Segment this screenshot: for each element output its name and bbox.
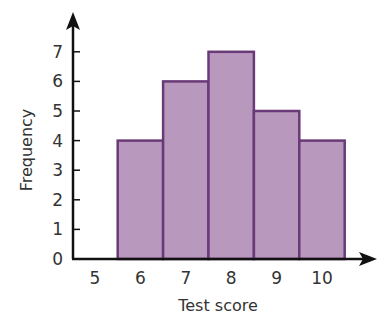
y-tick-label: 3 xyxy=(52,160,63,180)
y-tick-label: 2 xyxy=(52,190,63,210)
y-tick-label: 6 xyxy=(52,71,63,91)
x-tick-label: 10 xyxy=(311,268,333,288)
y-tick-label: 5 xyxy=(52,101,63,121)
y-axis-ticks: 01234567 xyxy=(52,42,80,269)
histogram-bar-10 xyxy=(299,141,344,259)
y-tick-label: 1 xyxy=(52,219,63,239)
histogram-chart: 01234567 5678910 Frequency Test score xyxy=(0,0,384,328)
histogram-bar-7 xyxy=(163,81,208,259)
y-tick-label: 0 xyxy=(52,249,63,269)
x-axis-ticks: 5678910 xyxy=(90,268,333,288)
x-tick-label: 6 xyxy=(135,268,146,288)
histogram-bar-6 xyxy=(118,141,163,259)
y-axis-title: Frequency xyxy=(17,109,36,192)
y-tick-label: 4 xyxy=(52,131,63,151)
x-tick-label: 5 xyxy=(90,268,101,288)
histogram-bar-8 xyxy=(209,52,254,259)
x-tick-label: 9 xyxy=(271,268,282,288)
y-tick-label: 7 xyxy=(52,42,63,62)
x-tick-label: 8 xyxy=(226,268,237,288)
x-tick-label: 7 xyxy=(180,268,191,288)
bars-group xyxy=(118,52,345,259)
histogram-bar-9 xyxy=(254,111,299,259)
x-axis-title: Test score xyxy=(177,296,258,315)
